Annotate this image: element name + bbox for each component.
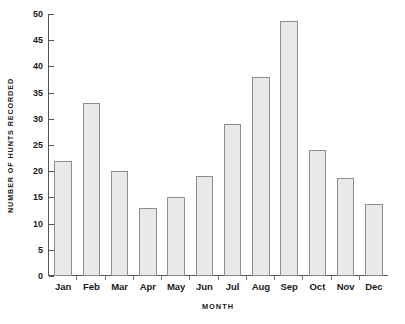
x-axis-tick-label: Sep <box>280 281 297 292</box>
x-axis-title: MONTH <box>48 302 388 311</box>
y-axis-tick-labels: 05101520253035404550 <box>20 14 46 276</box>
bar <box>280 21 298 276</box>
x-axis-tick-labels: JanFebMarAprMayJunJulAugSepOctNovDec <box>49 281 388 297</box>
y-axis-tick-label: 10 <box>33 219 43 229</box>
y-axis-tick-label: 45 <box>33 35 43 45</box>
bar <box>224 124 242 276</box>
bar <box>365 204 383 276</box>
x-axis-tick-label: Jun <box>196 281 213 292</box>
bar <box>309 150 327 276</box>
bars-layer <box>49 14 388 276</box>
y-axis-tick-label: 40 <box>33 61 43 71</box>
x-axis-tick-mark <box>218 276 219 280</box>
x-axis-tick-label: Nov <box>337 281 355 292</box>
x-axis-tick-mark <box>76 276 77 280</box>
y-axis-tick-label: 20 <box>33 166 43 176</box>
bar <box>337 178 355 277</box>
y-axis-tick-mark <box>49 276 54 277</box>
bar <box>196 176 214 276</box>
plot-area <box>48 14 388 276</box>
x-axis-tick-mark <box>161 276 162 280</box>
bar-chart: NUMBER OF HUNTS RECORDED 051015202530354… <box>0 0 405 324</box>
bar <box>54 161 72 276</box>
x-axis-tick-mark <box>359 276 360 280</box>
x-axis-tick-label: Jul <box>226 281 240 292</box>
x-axis-tick-mark <box>331 276 332 280</box>
x-axis-tick-mark <box>274 276 275 280</box>
x-axis-tick-label: Mar <box>111 281 128 292</box>
y-axis-title-text: NUMBER OF HUNTS RECORDED <box>6 77 15 212</box>
x-axis-tick-label: Oct <box>309 281 325 292</box>
bar <box>111 171 129 276</box>
bar <box>167 197 185 276</box>
y-axis-tick-label: 5 <box>38 245 43 255</box>
x-axis-tick-label: Aug <box>252 281 270 292</box>
x-axis-tick-label: May <box>167 281 185 292</box>
x-axis-tick-mark <box>189 276 190 280</box>
x-axis-tick-label: Dec <box>365 281 382 292</box>
y-axis-title: NUMBER OF HUNTS RECORDED <box>0 0 20 290</box>
y-axis-tick-label: 35 <box>33 88 43 98</box>
y-axis-tick-label: 0 <box>38 271 43 281</box>
x-axis-tick-mark <box>133 276 134 280</box>
x-axis-tick-mark <box>105 276 106 280</box>
y-axis-tick-label: 15 <box>33 192 43 202</box>
y-axis-tick-label: 50 <box>33 9 43 19</box>
x-axis-tick-label: Feb <box>83 281 100 292</box>
bar <box>252 77 270 276</box>
x-axis-tick-mark <box>246 276 247 280</box>
y-axis-tick-label: 25 <box>33 140 43 150</box>
y-axis-tick-label: 30 <box>33 114 43 124</box>
x-axis-tick-mark <box>302 276 303 280</box>
bar <box>83 103 101 276</box>
x-axis-tick-label: Jan <box>55 281 71 292</box>
x-axis-tick-label: Apr <box>140 281 156 292</box>
bar <box>139 208 157 276</box>
